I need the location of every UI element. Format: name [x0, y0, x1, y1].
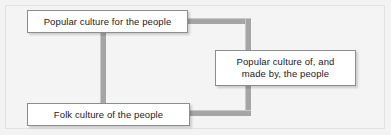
- node-label: Folk culture of the people: [54, 109, 163, 121]
- connector-popular-for-to-folk-of: [100, 28, 106, 108]
- node-folk-culture-of-the-people: Folk culture of the people: [27, 103, 190, 126]
- node-label: Popular culture of, and made by, the peo…: [237, 56, 335, 80]
- node-popular-culture-for-the-people: Popular culture for the people: [27, 10, 188, 33]
- node-popular-culture-of-and-made-by-the-people: Popular culture of, and made by, the peo…: [215, 50, 356, 86]
- connector-bottom-horizontal: [186, 110, 251, 116]
- connector-top-horizontal: [185, 18, 251, 24]
- node-label: Popular culture for the people: [44, 16, 172, 28]
- diagram-canvas: Popular culture for the people Folk cult…: [0, 0, 391, 135]
